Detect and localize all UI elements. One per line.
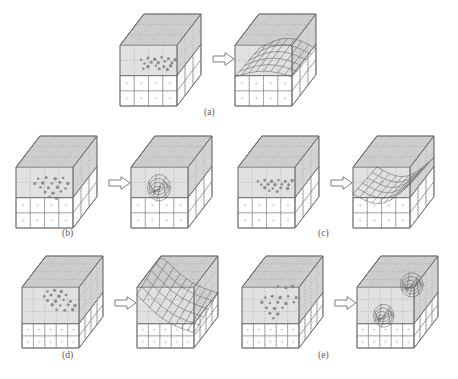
- sample-point: [265, 306, 268, 309]
- sample-point: [54, 299, 58, 303]
- sample-point: [295, 296, 298, 299]
- panel-a-arrow-icon: [213, 52, 235, 66]
- input-voxel-grid-d: [22, 256, 114, 348]
- sample-point: [267, 183, 270, 186]
- sample-point: [158, 67, 161, 70]
- sample-point: [167, 57, 170, 60]
- sample-point: [59, 304, 62, 307]
- sample-point: [43, 295, 46, 298]
- reconstructed-surface-a: [235, 14, 327, 106]
- sample-point: [260, 301, 264, 305]
- sample-point: [281, 183, 284, 186]
- sample-point: [67, 303, 70, 306]
- sample-point: [271, 187, 274, 190]
- sample-point: [73, 304, 77, 308]
- sample-point: [277, 179, 280, 182]
- sample-point: [268, 312, 271, 315]
- sample-point: [263, 186, 267, 190]
- panel-label-d: (d): [62, 350, 73, 360]
- reconstructed-surface-c: [353, 136, 445, 228]
- sample-point: [64, 187, 67, 190]
- sample-point: [62, 299, 65, 302]
- sample-point: [273, 183, 277, 187]
- sample-point: [160, 56, 163, 59]
- sample-point: [174, 58, 178, 62]
- sample-point: [293, 301, 296, 304]
- sample-point: [287, 183, 290, 186]
- reconstructed-surface-d: [137, 256, 229, 348]
- sample-point: [46, 299, 49, 302]
- sample-point: [47, 186, 50, 189]
- sample-point: [41, 181, 45, 185]
- sample-point: [50, 303, 54, 307]
- sample-point: [65, 294, 68, 297]
- arrow-glyph: [109, 177, 130, 190]
- sample-point: [276, 190, 279, 193]
- cube-front-upper-face: [137, 287, 194, 323]
- sample-point: [63, 309, 66, 312]
- figure-root: · ·· (a)(b)(c)(d)(e): [0, 0, 458, 379]
- sample-point: [48, 195, 51, 198]
- sample-point: [286, 187, 290, 191]
- sample-point: [62, 177, 65, 180]
- sample-point: [66, 182, 70, 186]
- input-voxel-grid-d-slot: [22, 256, 114, 348]
- sample-point: [57, 295, 61, 299]
- top-bleed-fragment-1: ·: [300, 0, 303, 9]
- sample-point: [284, 180, 287, 183]
- panel-d-arrow: [115, 296, 137, 310]
- sample-point: [39, 186, 42, 189]
- panel-b-arrow: [109, 176, 131, 190]
- input-voxel-grid-c: [238, 136, 330, 228]
- sample-point: [140, 58, 143, 61]
- sample-point: [263, 178, 266, 181]
- sample-point: [276, 301, 279, 304]
- sample-point: [37, 177, 40, 180]
- sample-point: [150, 61, 153, 64]
- reconstructed-surface-b-slot: [131, 136, 223, 228]
- sample-point: [272, 317, 275, 320]
- input-voxel-grid-a-slot: [120, 14, 212, 106]
- sample-point: [156, 61, 160, 65]
- arrow-glyph: [335, 297, 356, 310]
- sample-point: [60, 190, 63, 193]
- sample-point: [170, 61, 173, 64]
- sample-point: [273, 307, 277, 311]
- panel-e-arrow: [335, 296, 357, 310]
- reconstructed-surface-e-slot: [357, 256, 449, 348]
- sample-point: [270, 179, 274, 183]
- top-text-bleed: · ··: [0, 0, 458, 9]
- reconstructed-surface-e: [357, 256, 449, 348]
- top-bleed-fragment-0: · ·: [188, 0, 196, 9]
- sample-point: [69, 300, 72, 303]
- panel-d-arrow-icon: [115, 296, 137, 310]
- arrow-glyph: [213, 53, 234, 66]
- panel-label-b: (b): [62, 228, 73, 238]
- sample-point: [155, 65, 158, 68]
- sample-point: [291, 285, 295, 289]
- sample-point: [56, 185, 60, 189]
- sample-point: [54, 177, 58, 181]
- sample-point: [55, 308, 58, 311]
- input-voxel-grid-b-slot: [16, 136, 108, 228]
- sample-point: [276, 312, 280, 316]
- sample-point: [284, 302, 288, 306]
- sample-point: [277, 285, 280, 288]
- sample-point: [146, 56, 149, 59]
- sample-point: [257, 180, 260, 183]
- sample-point: [71, 308, 75, 312]
- sample-point: [51, 182, 54, 185]
- input-voxel-grid-c-slot: [238, 136, 330, 228]
- sample-point: [53, 289, 56, 292]
- cube-front-upper-face: [22, 287, 79, 323]
- sample-point: [264, 296, 267, 299]
- input-voxel-grid-e-slot: [242, 256, 334, 348]
- sample-point: [60, 290, 64, 294]
- arrow-glyph: [115, 297, 136, 310]
- arrow-glyph: [331, 177, 352, 190]
- sample-point: [268, 190, 271, 193]
- sample-point: [269, 302, 272, 305]
- sample-point: [162, 65, 165, 68]
- sample-point: [271, 295, 274, 298]
- input-voxel-grid-a: [120, 14, 212, 106]
